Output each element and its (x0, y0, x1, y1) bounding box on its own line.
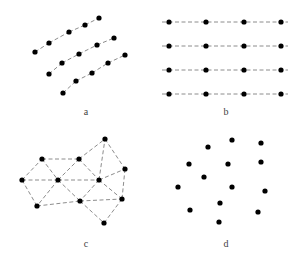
point-dot (187, 207, 192, 212)
panel-c-triangulated-mesh (19, 136, 127, 225)
point-dot (19, 177, 24, 182)
point-dot (186, 161, 191, 166)
dashed-edge (80, 199, 122, 201)
point-dot (122, 166, 127, 171)
dashed-edge (122, 169, 125, 199)
point-dot (96, 177, 101, 182)
point-dot (166, 91, 171, 96)
dashed-edge (79, 159, 99, 180)
point-dot (166, 19, 171, 24)
point-distribution-figure: a b c d (0, 0, 297, 262)
panel-a-curved-lines (32, 15, 127, 95)
dashed-edge (80, 201, 104, 223)
dashed-edge (37, 180, 58, 206)
point-dot (77, 198, 82, 203)
point-dot (119, 196, 124, 201)
point-dot (205, 144, 210, 149)
point-dot (122, 52, 127, 57)
panel-b-label: b (224, 106, 229, 117)
point-dot (76, 156, 81, 161)
point-dot (229, 137, 234, 142)
dashed-edge (49, 32, 69, 43)
dashed-edge (80, 180, 99, 201)
dashed-edge (69, 25, 85, 32)
dashed-edge (104, 199, 122, 223)
dashed-edge (79, 139, 105, 159)
panel-b-grid (162, 19, 288, 96)
dashed-edge (108, 55, 125, 63)
dashed-edge (79, 45, 97, 54)
point-dot (278, 43, 283, 48)
point-dot (94, 42, 99, 47)
point-dot (241, 67, 246, 72)
point-dot (76, 51, 81, 56)
point-dot (46, 71, 51, 76)
panel-a-label: a (84, 106, 89, 117)
point-dot (225, 161, 230, 166)
point-dot (59, 60, 64, 65)
point-dot (255, 209, 260, 214)
dashed-edge (105, 139, 125, 169)
point-dot (32, 49, 37, 54)
dashed-edge (42, 159, 58, 180)
dashed-edge (58, 180, 80, 201)
dashed-edge (99, 180, 122, 199)
point-dot (96, 15, 101, 20)
dashed-edge (76, 73, 92, 81)
point-dot (203, 91, 208, 96)
point-dot (262, 188, 267, 193)
panel-d-label: d (224, 238, 229, 249)
point-dot (216, 219, 221, 224)
dashed-edge (99, 139, 105, 180)
point-dot (241, 43, 246, 48)
point-dot (105, 60, 110, 65)
point-dot (203, 67, 208, 72)
point-dot (258, 159, 263, 164)
point-dot (66, 29, 71, 34)
point-dot (101, 220, 106, 225)
panel-c-label: c (84, 238, 89, 249)
point-dot (166, 67, 171, 72)
dashed-edge (63, 81, 76, 93)
point-dot (82, 22, 87, 27)
dashed-edge (92, 63, 108, 73)
point-dot (89, 70, 94, 75)
point-dot (258, 140, 263, 145)
point-dot (60, 90, 65, 95)
dashed-edge (22, 180, 37, 206)
point-dot (278, 67, 283, 72)
point-dot (175, 184, 180, 189)
dashed-edge (58, 159, 79, 180)
point-dot (203, 43, 208, 48)
point-dot (46, 40, 51, 45)
point-dot (166, 43, 171, 48)
point-dot (241, 19, 246, 24)
dashed-edge (99, 169, 125, 180)
point-dot (203, 19, 208, 24)
point-dot (102, 136, 107, 141)
point-dot (39, 156, 44, 161)
point-dot (229, 184, 234, 189)
point-dot (278, 19, 283, 24)
point-dot (217, 200, 222, 205)
point-dot (73, 78, 78, 83)
point-dot (278, 91, 283, 96)
point-dot (55, 177, 60, 182)
dashed-edge (62, 54, 79, 63)
dashed-edge (97, 38, 114, 45)
dashed-edge (37, 201, 80, 206)
panel-d-scattered-points (175, 137, 267, 224)
point-dot (34, 203, 39, 208)
point-dot (201, 174, 206, 179)
dashed-edge (22, 159, 42, 180)
point-dot (111, 35, 116, 40)
point-dot (241, 91, 246, 96)
